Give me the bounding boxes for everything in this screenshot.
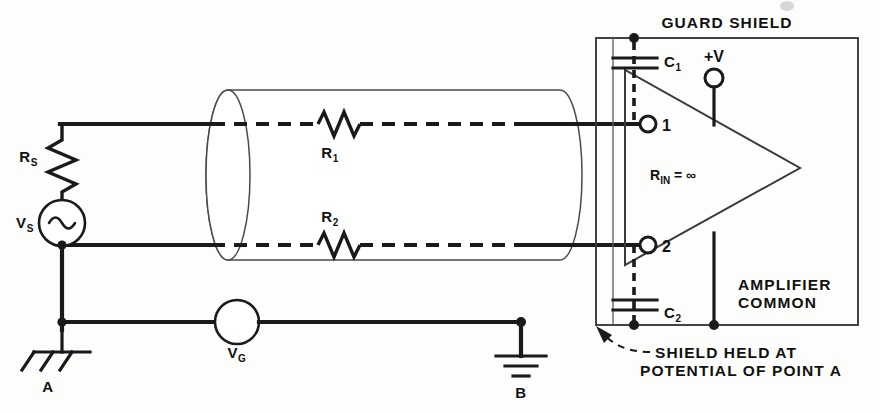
cable-body (206, 90, 582, 260)
shielded-cable (206, 90, 582, 260)
ground-return-line (62, 300, 526, 356)
guard-shield-label: GUARD SHIELD (661, 14, 792, 31)
ground-a-hatch-3 (60, 352, 72, 370)
amplifier-common-label-line1: AMPLIFIER (738, 276, 831, 293)
resistor-rs (48, 124, 76, 200)
supply-terminal-label: +V (704, 48, 724, 65)
capacitor-c1-label: C1 (664, 53, 682, 73)
shield-note-line1: SHIELD HELD AT (655, 344, 797, 361)
node-dot-source (57, 240, 66, 249)
cable-left-opening (206, 90, 250, 260)
node-dot-c1-shield (629, 33, 639, 43)
source-branch (39, 124, 85, 330)
ground-point-a-label: A (42, 378, 53, 395)
ground-a-hatch-1 (22, 352, 34, 370)
shield-note-callout (596, 326, 650, 352)
input-terminal-1-label: 1 (662, 117, 671, 134)
input-terminal-1[interactable] (640, 116, 656, 132)
ground-point-b-label: B (515, 384, 526, 401)
node-dot-c2-shield (629, 320, 639, 330)
diagram-canvas: R1 R2 RS VS VG (0, 0, 881, 414)
supply-terminal-ring[interactable] (705, 69, 723, 87)
input-resistance-label: RIN = ∞ (650, 167, 696, 186)
ground-symbol-a (22, 322, 90, 370)
capacitor-c2 (613, 245, 657, 330)
node-dot-amplifier-common (709, 320, 719, 330)
voltage-source-vg-label: VG (228, 344, 247, 364)
ground-a-hatch-2 (41, 352, 53, 370)
shield-note-line2: POTENTIAL OF POINT A (640, 362, 842, 379)
input-terminal-2[interactable] (640, 237, 656, 253)
voltage-source-vs-label: VS (16, 214, 34, 234)
resistor-rs-label: RS (19, 148, 38, 168)
capacitor-c2-label: C2 (664, 304, 682, 324)
circuit-diagram: R1 R2 RS VS VG (0, 0, 881, 414)
capacitor-c1 (613, 33, 657, 124)
input-terminal-2-label: 2 (662, 238, 671, 255)
amplifier-common-lead (709, 233, 719, 330)
amplifier-common-label-line2: COMMON (738, 294, 817, 311)
voltage-source-vg (215, 300, 259, 344)
scan-artifact (780, 1, 794, 11)
ground-symbol-b (496, 356, 546, 376)
